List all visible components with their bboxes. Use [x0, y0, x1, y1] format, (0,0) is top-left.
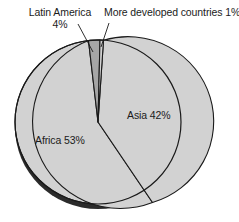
slice-label-latin-america-name: Latin America: [18, 6, 102, 18]
pie-chart-graphic: [0, 0, 239, 222]
slice-label-africa: Africa 53%: [35, 134, 85, 146]
slice-label-asia: Asia 42%: [127, 109, 171, 121]
pie-chart-figure: Latin America 4% More developed countrie…: [0, 0, 239, 222]
slice-label-more-developed: More developed countries 1%: [104, 6, 238, 18]
pie-body: [15, 37, 214, 209]
slice-label-latin-america: Latin America 4%: [18, 6, 102, 30]
slice-label-latin-america-value: 4%: [18, 18, 102, 30]
